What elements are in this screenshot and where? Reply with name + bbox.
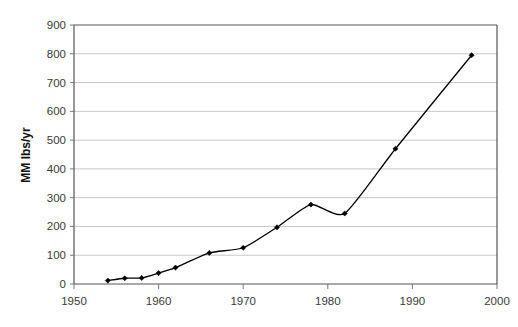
y-tick-label: 300 [47, 192, 66, 204]
y-tick-label: 900 [47, 19, 66, 31]
x-axis-ticks: 195019601970198019902000 [61, 284, 510, 307]
y-tick-label: 0 [60, 278, 66, 290]
x-tick-label: 1950 [61, 295, 87, 307]
chart-container: 195019601970198019902000 010020030040050… [0, 0, 518, 327]
data-point-marker [156, 270, 161, 275]
x-tick-label: 2000 [484, 295, 510, 307]
data-point-marker [122, 276, 127, 281]
y-axis-title: MM lbs/yr [19, 127, 33, 183]
data-point-marker [173, 265, 178, 270]
data-point-marker [105, 278, 110, 283]
data-series [108, 55, 472, 280]
data-point-markers [105, 53, 474, 284]
data-point-marker [308, 202, 313, 207]
grid-lines [74, 54, 497, 255]
y-tick-label: 600 [47, 105, 66, 117]
plot-frame [74, 25, 497, 284]
y-tick-label: 800 [47, 48, 66, 60]
series-line-production [108, 55, 472, 280]
data-point-marker [139, 275, 144, 280]
x-tick-label: 1970 [230, 295, 256, 307]
y-axis-ticks: 0100200300400500600700800900 [47, 19, 74, 290]
x-tick-label: 1990 [400, 295, 426, 307]
line-chart: 195019601970198019902000 010020030040050… [0, 0, 518, 327]
data-point-marker [207, 250, 212, 255]
x-tick-label: 1960 [146, 295, 172, 307]
y-tick-label: 100 [47, 249, 66, 261]
y-tick-label: 400 [47, 163, 66, 175]
data-point-marker [241, 245, 246, 250]
x-tick-label: 1980 [315, 295, 341, 307]
y-tick-label: 500 [47, 134, 66, 146]
y-tick-label: 700 [47, 77, 66, 89]
y-tick-label: 200 [47, 220, 66, 232]
